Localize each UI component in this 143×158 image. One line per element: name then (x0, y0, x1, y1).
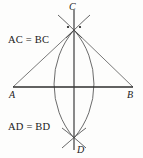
segment-cb (74, 30, 133, 87)
vertex-label-b: B (127, 90, 133, 100)
intersection-dot-c-right (79, 26, 81, 28)
intersection-dot-c-left (67, 26, 69, 28)
vertex-label-d: D (77, 145, 84, 155)
geometry-figure: A B C D AC = BC AD = BD (0, 0, 143, 158)
geometry-canvas (0, 0, 143, 158)
vertex-label-c: C (69, 2, 76, 12)
equation-label-ac-eq-bc: AC = BC (8, 35, 49, 46)
equation-label-ad-eq-bd: AD = BD (8, 122, 50, 133)
vertex-label-a: A (9, 90, 15, 100)
